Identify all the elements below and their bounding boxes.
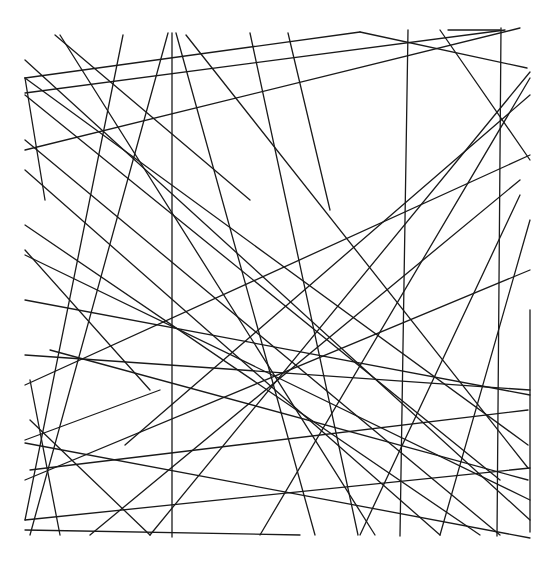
abstract-line-drawing <box>0 0 555 572</box>
line-art-canvas <box>0 0 555 572</box>
